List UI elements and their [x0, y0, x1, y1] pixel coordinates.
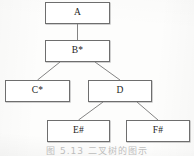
tree-node-e-label: E# — [73, 126, 84, 136]
edge-d-f — [137, 102, 158, 120]
tree-node-a-label: A — [74, 8, 81, 18]
edge-b-c — [38, 62, 61, 80]
tree-node-f-label: F# — [153, 126, 163, 136]
tree-node-b-label: B* — [72, 46, 84, 56]
tree-node-b: B* — [45, 40, 110, 62]
tree-node-d-label: D — [116, 86, 123, 96]
figure-caption: 图 5.13 二叉树的图示 — [0, 146, 194, 156]
figure-canvas: A B* C* D E# F# 图 5.13 二叉树的图示 — [0, 0, 194, 156]
figure-caption-text: 图 5.13 二叉树的图示 — [46, 146, 148, 156]
edge-d-e — [79, 102, 104, 120]
tree-node-d: D — [88, 80, 152, 102]
tree-node-c: C* — [5, 80, 70, 102]
tree-node-a: A — [45, 2, 110, 24]
tree-node-e: E# — [47, 120, 110, 142]
edge-b-d — [95, 62, 120, 80]
tree-node-f: F# — [126, 120, 190, 142]
tree-node-c-label: C* — [32, 86, 44, 96]
